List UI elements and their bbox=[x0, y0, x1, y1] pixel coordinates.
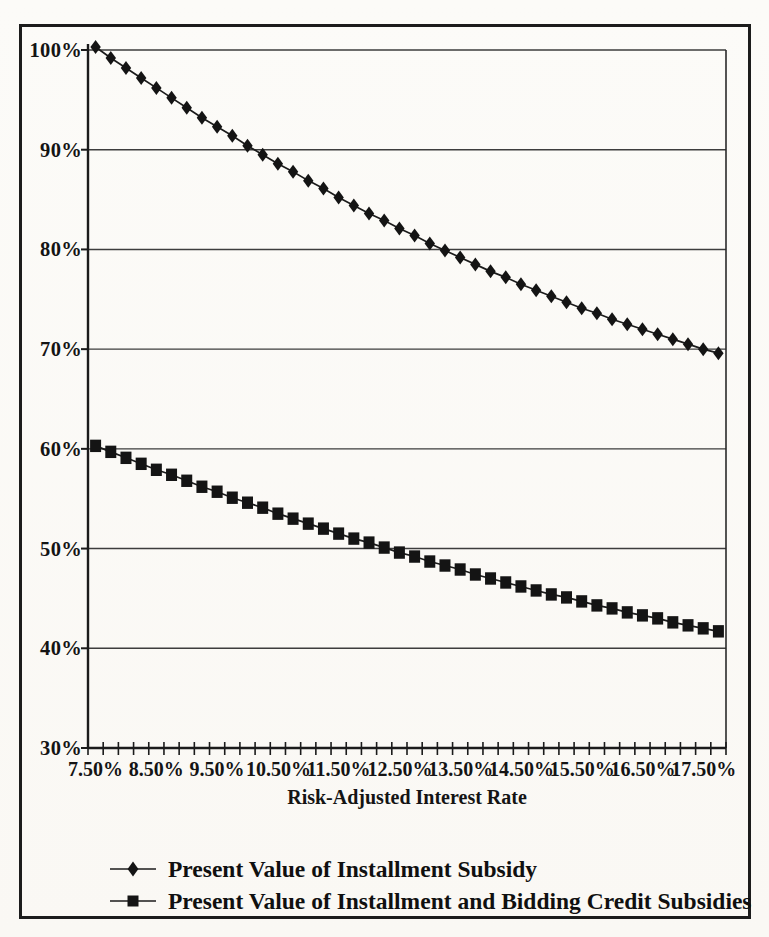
series-line-installment-subsidy bbox=[96, 47, 719, 353]
diamond-marker bbox=[197, 111, 207, 125]
square-marker bbox=[379, 541, 390, 553]
square-marker bbox=[500, 576, 511, 588]
y-axis-label: 40% bbox=[10, 635, 82, 661]
x-axis-label: 9.50% bbox=[185, 757, 249, 781]
square-marker bbox=[303, 517, 314, 529]
square-marker bbox=[136, 458, 147, 470]
y-axis-label: 80% bbox=[10, 236, 82, 262]
square-marker bbox=[683, 619, 694, 631]
square-marker-icon bbox=[108, 890, 158, 912]
legend-label-installment-subsidy: Present Value of Installment Subsidy bbox=[168, 856, 537, 883]
diamond-marker-icon bbox=[108, 858, 158, 880]
square-marker bbox=[90, 440, 101, 452]
legend: Present Value of Installment Subsidy Pre… bbox=[108, 853, 752, 917]
diamond-marker bbox=[425, 236, 435, 250]
x-axis-label: 7.50% bbox=[64, 757, 128, 781]
diamond-marker bbox=[364, 207, 374, 221]
square-marker bbox=[439, 559, 450, 571]
diamond-marker bbox=[151, 81, 161, 95]
x-axis-label: 13.50% bbox=[428, 757, 492, 781]
square-marker bbox=[713, 625, 724, 637]
x-axis-label: 14.50% bbox=[489, 757, 553, 781]
square-marker bbox=[257, 501, 268, 513]
square-marker bbox=[166, 469, 177, 481]
legend-item-installment-and-bidding-credit: Present Value of Installment and Bidding… bbox=[108, 885, 752, 917]
x-axis-label: 8.50% bbox=[124, 757, 188, 781]
diamond-marker bbox=[516, 277, 526, 291]
diamond-marker bbox=[166, 91, 176, 105]
legend-item-installment-subsidy: Present Value of Installment Subsidy bbox=[108, 853, 752, 885]
square-marker bbox=[105, 446, 116, 458]
diamond-marker bbox=[90, 40, 100, 54]
y-axis-label: 70% bbox=[10, 336, 82, 362]
series-line-installment-and-bidding-credit bbox=[96, 446, 719, 631]
y-axis-label: 60% bbox=[10, 436, 82, 462]
square-marker bbox=[652, 612, 663, 624]
square-marker bbox=[424, 555, 435, 567]
y-axis-label: 100% bbox=[10, 37, 82, 63]
square-marker bbox=[151, 464, 162, 476]
legend-label-installment-and-bidding-credit: Present Value of Installment and Bidding… bbox=[168, 888, 752, 915]
diamond-marker bbox=[303, 174, 313, 188]
diamond-marker bbox=[242, 139, 252, 153]
diamond-marker bbox=[440, 243, 450, 257]
square-marker bbox=[272, 507, 283, 519]
diamond-marker bbox=[394, 221, 404, 235]
square-marker bbox=[455, 563, 466, 575]
square-marker bbox=[394, 546, 405, 558]
square-marker bbox=[515, 580, 526, 592]
square-marker bbox=[698, 622, 709, 634]
diamond-marker bbox=[106, 51, 116, 65]
square-marker bbox=[637, 609, 648, 621]
square-marker bbox=[485, 572, 496, 584]
diamond-marker bbox=[576, 301, 586, 315]
square-marker bbox=[288, 512, 299, 524]
square-marker bbox=[576, 595, 587, 607]
x-axis-label: 17.50% bbox=[671, 757, 735, 781]
diamond-marker bbox=[182, 101, 192, 115]
y-axis-label: 90% bbox=[10, 137, 82, 163]
diamond-marker bbox=[592, 306, 602, 320]
square-marker bbox=[227, 492, 238, 504]
diamond-marker bbox=[607, 312, 617, 326]
square-marker bbox=[546, 588, 557, 600]
diamond-marker bbox=[318, 182, 328, 196]
square-marker bbox=[607, 602, 618, 614]
diamond-marker bbox=[212, 120, 222, 134]
diamond-marker bbox=[561, 295, 571, 309]
x-axis-label: 10.50% bbox=[246, 757, 310, 781]
diamond-marker bbox=[622, 317, 632, 331]
diamond-marker bbox=[349, 199, 359, 213]
square-marker bbox=[667, 616, 678, 628]
x-axis-label: 15.50% bbox=[550, 757, 614, 781]
x-axis-label: 12.50% bbox=[367, 757, 431, 781]
square-marker bbox=[561, 591, 572, 603]
diamond-marker bbox=[121, 61, 131, 75]
diamond-marker bbox=[485, 264, 495, 278]
square-marker bbox=[196, 481, 207, 493]
diamond-marker bbox=[668, 332, 678, 346]
square-marker bbox=[591, 599, 602, 611]
diamond-marker bbox=[652, 327, 662, 341]
square-marker bbox=[181, 475, 192, 487]
diamond-marker bbox=[470, 257, 480, 271]
square-marker bbox=[212, 486, 223, 498]
diamond-marker bbox=[333, 191, 343, 205]
square-marker bbox=[318, 522, 329, 534]
diamond-marker bbox=[227, 129, 237, 143]
square-marker bbox=[531, 584, 542, 596]
x-axis-title: Risk-Adjusted Interest Rate bbox=[88, 786, 726, 809]
diamond-marker bbox=[531, 283, 541, 297]
square-marker bbox=[348, 532, 359, 544]
square-marker bbox=[470, 568, 481, 580]
diamond-marker bbox=[273, 157, 283, 171]
diamond-marker bbox=[501, 270, 511, 284]
y-axis-label: 50% bbox=[10, 536, 82, 562]
square-marker bbox=[242, 497, 253, 509]
diamond-marker bbox=[637, 322, 647, 336]
diamond-marker bbox=[379, 214, 389, 228]
square-marker bbox=[364, 536, 375, 548]
square-marker bbox=[622, 606, 633, 618]
diamond-marker bbox=[455, 250, 465, 264]
square-marker bbox=[409, 550, 420, 562]
